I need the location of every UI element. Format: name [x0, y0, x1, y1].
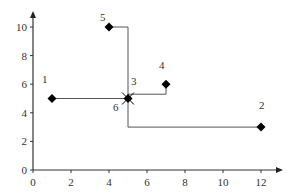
y-tick-label: 0 [22, 164, 28, 176]
y-tick-label: 10 [16, 21, 28, 33]
x-tick-label: 6 [144, 176, 150, 188]
y-tick-label: 8 [22, 50, 28, 62]
point-label: 2 [259, 99, 265, 111]
point-label: 3 [131, 75, 137, 87]
diamond-marker-icon [48, 94, 57, 103]
x-tick-label: 12 [256, 176, 267, 188]
y-tick-label: 6 [22, 78, 28, 90]
point-label: 5 [100, 11, 106, 23]
connector-line [109, 27, 128, 99]
x-tick-label: 2 [68, 176, 74, 188]
diamond-marker-icon [105, 23, 114, 32]
point-label: 1 [42, 73, 48, 85]
point-label: 4 [159, 59, 165, 71]
x-tick-label: 0 [30, 176, 36, 188]
y-axis-arrow-icon [30, 11, 36, 18]
x-axis-arrow-icon [276, 167, 283, 173]
y-tick-label: 4 [22, 107, 28, 119]
point-label: 6 [113, 101, 119, 113]
diamond-marker-icon [257, 123, 266, 132]
connector-line [128, 99, 261, 128]
x-tick-label: 10 [218, 176, 230, 188]
scatter-chart: 0246810120246810123456 [0, 0, 293, 196]
diamond-marker-icon [162, 80, 171, 89]
x-tick-label: 8 [182, 176, 188, 188]
x-tick-label: 4 [106, 176, 112, 188]
y-tick-label: 2 [22, 135, 28, 147]
